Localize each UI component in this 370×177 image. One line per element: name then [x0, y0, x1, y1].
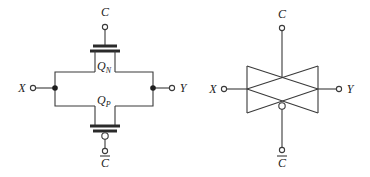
control-bar-label: C [101, 156, 110, 170]
output-junction-dot [150, 85, 156, 91]
symbol-control-terminal [279, 25, 284, 30]
symbol-control-bar-terminal [279, 147, 284, 152]
control-label: C [101, 5, 110, 19]
input-terminal [30, 85, 35, 90]
symbol-input-terminal [221, 86, 226, 91]
control-terminal [102, 24, 107, 29]
input-junction-dot [52, 85, 58, 91]
pmos-label: QP [97, 93, 111, 109]
symbol-output-terminal [336, 86, 341, 91]
nmos-label: QN [97, 59, 112, 75]
output-terminal [169, 85, 174, 90]
control-bar-terminal [102, 148, 107, 153]
symbol-output-label: Y [347, 82, 355, 96]
pmos-inversion-bubble [102, 133, 108, 139]
symbol-control-bar-label: C [278, 156, 287, 170]
right-rail [115, 72, 153, 106]
symbol-inversion-bubble [279, 103, 285, 109]
left-diagram: C QN QP C X Y [17, 5, 187, 170]
symbol-input-label: X [208, 82, 217, 96]
transmission-gate-figure: C QN QP C X Y C [0, 0, 370, 177]
symbol-control-label: C [278, 7, 287, 21]
right-diagram: C C X Y [208, 7, 354, 170]
output-label: Y [180, 81, 188, 95]
input-label: X [17, 81, 26, 95]
left-rail [55, 72, 95, 106]
